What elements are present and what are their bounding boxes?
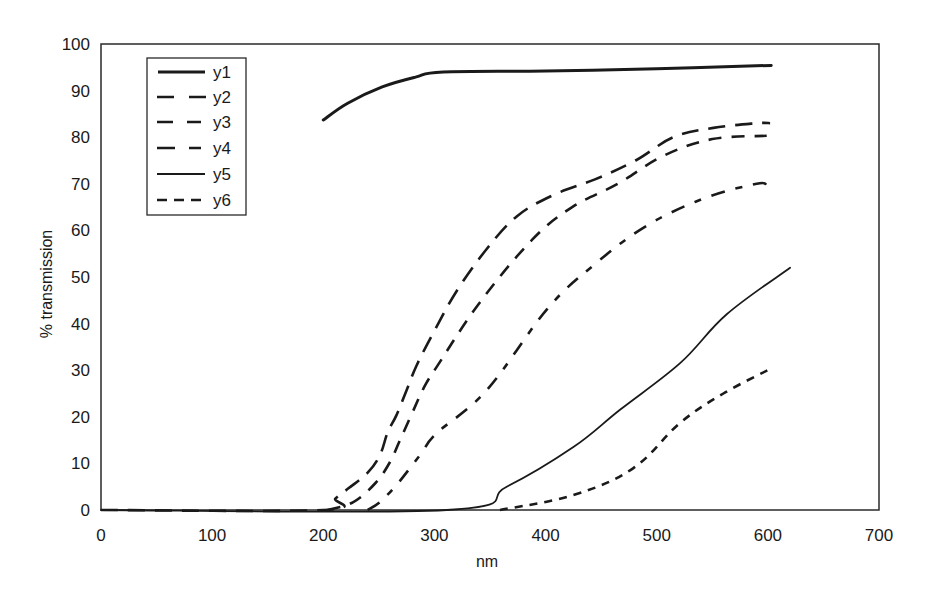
legend-label: y5 (213, 165, 231, 184)
y-tick-label: 40 (71, 315, 90, 334)
x-tick-label: 700 (865, 526, 893, 545)
series-y4 (368, 183, 767, 510)
legend-label: y4 (213, 139, 231, 158)
x-tick-label: 500 (643, 526, 671, 545)
legend-label: y2 (213, 88, 231, 107)
y-axis-title: % transmission (38, 230, 55, 338)
x-tick-label: 600 (754, 526, 782, 545)
legend-label: y3 (213, 113, 231, 132)
x-tick-label: 400 (531, 526, 559, 545)
y-tick-label: 100 (62, 35, 90, 54)
y-tick-label: 70 (71, 175, 90, 194)
legend-box (147, 58, 246, 215)
x-tick-label: 200 (309, 526, 337, 545)
y-tick-label: 0 (81, 501, 90, 520)
y-tick-label: 90 (71, 82, 90, 101)
y-tick-label: 10 (71, 454, 90, 473)
y-axis-ticks: 0 10 20 30 40 50 60 70 80 90 100 (62, 35, 90, 520)
legend: y1 y2 y3 y4 y5 y6 (147, 58, 246, 215)
x-axis-ticks: 0 100 200 300 400 500 600 700 (96, 526, 893, 545)
x-axis-title: nm (476, 553, 498, 570)
legend-label: y1 (213, 63, 231, 82)
series-y3 (328, 136, 767, 510)
series-y5 (101, 268, 790, 512)
y-tick-label: 50 (71, 268, 90, 287)
series-y6 (500, 368, 772, 510)
x-tick-label: 0 (96, 526, 105, 545)
y-tick-label: 30 (71, 361, 90, 380)
y-tick-label: 20 (71, 408, 90, 427)
series-y1 (323, 65, 771, 120)
legend-label: y6 (213, 191, 231, 210)
y-tick-label: 80 (71, 128, 90, 147)
transmission-line-chart: 0 10 20 30 40 50 60 70 80 90 100 0 100 2… (0, 0, 930, 592)
x-tick-label: 300 (420, 526, 448, 545)
y-tick-label: 60 (71, 221, 90, 240)
x-tick-label: 100 (198, 526, 226, 545)
